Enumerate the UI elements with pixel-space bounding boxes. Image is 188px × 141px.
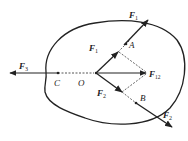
label-f2-outer: F2 bbox=[162, 110, 172, 121]
parallelogram-dashed-2 bbox=[122, 74, 146, 92]
point-b-dot bbox=[135, 102, 138, 105]
point-label-c: C bbox=[54, 78, 61, 88]
point-label-o: O bbox=[78, 78, 85, 88]
point-a-dot bbox=[125, 43, 128, 46]
f1-outer-arrow bbox=[124, 20, 148, 45]
label-f12: F12 bbox=[148, 69, 161, 80]
f2-line-of-action-dashed bbox=[122, 92, 136, 103]
parallelogram-dashed-1 bbox=[119, 52, 146, 72]
label-f2-inner: F2 bbox=[96, 88, 106, 99]
label-f1-outer: F1 bbox=[128, 10, 138, 21]
point-label-b: B bbox=[140, 93, 146, 103]
label-f3: F3 bbox=[18, 61, 28, 72]
force-diagram: A B C O F1 F1 F2 F2 F3 F12 bbox=[0, 0, 188, 141]
point-c-dot bbox=[57, 72, 60, 75]
point-o-dot bbox=[95, 72, 97, 74]
label-f1-inner: F1 bbox=[88, 43, 98, 54]
f1-inner-arrow bbox=[96, 52, 118, 73]
point-label-a: A bbox=[128, 40, 135, 50]
